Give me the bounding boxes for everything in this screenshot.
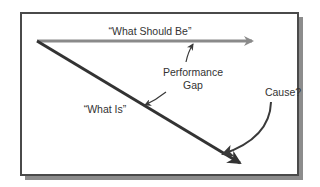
diagram-frame xyxy=(21,13,298,175)
performance-gap-diagram: “What Should Be” Performance Gap “What I… xyxy=(0,0,320,187)
cause-label: Cause? xyxy=(265,86,301,98)
what-should-be-label: “What Should Be” xyxy=(109,25,192,37)
what-is-label: “What Is” xyxy=(84,103,127,115)
gap-label: Gap xyxy=(183,79,203,91)
performance-label: Performance xyxy=(163,66,223,78)
